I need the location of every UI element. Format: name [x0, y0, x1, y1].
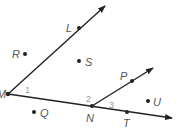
label-r: R [12, 48, 20, 60]
point-n [90, 104, 94, 108]
label-u: U [153, 96, 161, 108]
point-m [6, 92, 10, 96]
point-p [130, 79, 134, 83]
label-t: T [123, 117, 131, 129]
label-l: L [66, 22, 72, 34]
label-q: Q [40, 107, 49, 119]
angle-label-1: 1 [25, 85, 30, 95]
point-q [32, 110, 36, 114]
angle-label-3: 3 [109, 100, 114, 110]
label-s: S [85, 56, 93, 68]
label-p: P [120, 70, 128, 82]
angle-label-2: 2 [86, 94, 91, 104]
point-s [77, 59, 81, 63]
label-m: M [0, 88, 7, 100]
point-l [77, 26, 81, 30]
geometry-diagram: M L R S P N T U Q 1 2 3 [0, 0, 178, 138]
point-u [146, 99, 150, 103]
point-r [23, 52, 27, 56]
label-n: N [86, 112, 94, 124]
point-t [125, 110, 129, 114]
ray-ml [8, 6, 105, 94]
